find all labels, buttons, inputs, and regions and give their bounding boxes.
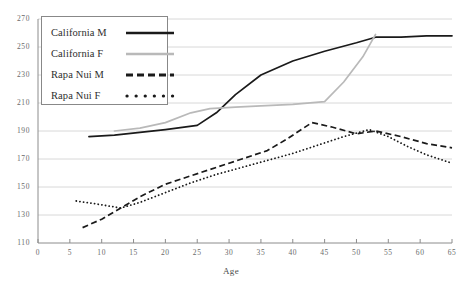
y-tick-label: 270 <box>4 14 30 23</box>
legend-item-rapa-nui-f[interactable]: Rapa Nui F <box>42 85 167 106</box>
line-chart: 110130150170190210230250270 051015202530… <box>0 0 462 291</box>
y-tick-label: 230 <box>4 70 30 79</box>
x-tick-label: 5 <box>59 248 81 257</box>
x-axis-title: Age <box>0 266 462 276</box>
dotted-black-line-icon <box>125 90 175 102</box>
legend-item-california-f[interactable]: California F <box>42 43 167 64</box>
x-tick-label: 30 <box>218 248 240 257</box>
x-tick-label: 60 <box>409 248 431 257</box>
solid-gray-line-icon <box>125 48 175 60</box>
x-tick-label: 45 <box>314 248 336 257</box>
legend-label: Rapa Nui M <box>51 69 125 80</box>
legend-item-california-m[interactable]: California M <box>42 22 167 43</box>
y-tick-label: 250 <box>4 42 30 51</box>
solid-black-line-icon <box>125 27 175 39</box>
x-tick-marks <box>38 239 452 243</box>
legend-label: Rapa Nui F <box>51 90 125 101</box>
x-tick-label: 15 <box>123 248 145 257</box>
series-line-rapa-nui-f <box>76 130 452 208</box>
x-tick-label: 40 <box>282 248 304 257</box>
dashed-black-line-icon <box>125 69 175 81</box>
y-tick-label: 190 <box>4 126 30 135</box>
x-tick-label: 35 <box>250 248 272 257</box>
x-tick-label: 50 <box>345 248 367 257</box>
legend-label: California F <box>51 48 125 59</box>
x-tick-label: 20 <box>154 248 176 257</box>
x-tick-label: 10 <box>91 248 113 257</box>
x-tick-label: 25 <box>186 248 208 257</box>
y-tick-label: 170 <box>4 154 30 163</box>
x-tick-label: 65 <box>441 248 462 257</box>
legend-label: California M <box>51 27 125 38</box>
y-tick-label: 130 <box>4 210 30 219</box>
legend-item-rapa-nui-m[interactable]: Rapa Nui M <box>42 64 167 85</box>
y-tick-label: 210 <box>4 98 30 107</box>
series-line-rapa-nui-m <box>83 123 452 228</box>
x-tick-label: 55 <box>377 248 399 257</box>
x-tick-label: 0 <box>27 248 49 257</box>
y-tick-label: 110 <box>4 238 30 247</box>
legend: California M California F Rapa Nui M Rap… <box>41 16 168 105</box>
y-tick-label: 150 <box>4 182 30 191</box>
